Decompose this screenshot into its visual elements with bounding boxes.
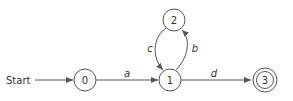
edge-label-c: c bbox=[147, 43, 153, 54]
start-label: Start bbox=[6, 75, 31, 86]
edge-label-b: b bbox=[192, 43, 198, 54]
state-3-accepting: 3 bbox=[253, 68, 277, 92]
state-0: 0 bbox=[74, 69, 96, 91]
edge-2-1 bbox=[155, 28, 166, 70]
edge-label-a: a bbox=[124, 68, 130, 79]
state-0-label: 0 bbox=[82, 75, 88, 86]
edge-label-d: d bbox=[211, 68, 218, 79]
state-1: 1 bbox=[159, 69, 181, 91]
state-2: 2 bbox=[163, 9, 185, 31]
state-1-label: 1 bbox=[167, 75, 173, 86]
state-3-label: 3 bbox=[262, 75, 268, 86]
edge-1-2 bbox=[176, 30, 187, 70]
fsa-diagram: Start a b c d 0 1 2 3 bbox=[0, 0, 293, 101]
state-2-label: 2 bbox=[171, 15, 177, 26]
